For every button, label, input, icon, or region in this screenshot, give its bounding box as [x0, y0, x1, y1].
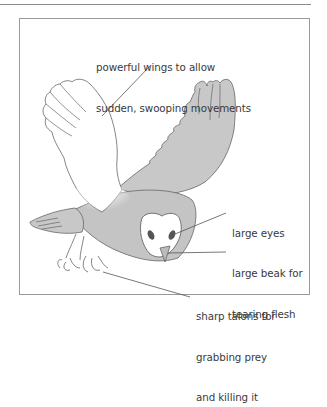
talons-annotation: sharp talons for grabbing prey and killi…: [196, 283, 275, 407]
wings-annotation: powerful wings to allow sudden, swooping…: [96, 34, 251, 129]
tail-feathers: [30, 208, 84, 233]
